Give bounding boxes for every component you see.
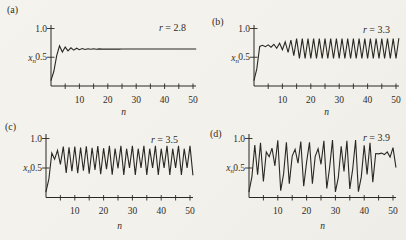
x-tick-label: 10 (278, 95, 288, 105)
y-tick-label: 1.0 (30, 134, 42, 144)
y-tick-label: 1.0 (233, 134, 245, 144)
x-tick-label: 10 (75, 95, 85, 105)
panel-a: 0.51.0xn1020304050n(a)r = 2.8 (0, 0, 203, 120)
x-tick-label: 50 (188, 95, 198, 105)
panel-letter: (c) (5, 121, 16, 133)
x-tick-label: 10 (273, 206, 283, 216)
x-axis-label: n (320, 221, 325, 231)
x-tick-label: 50 (388, 206, 398, 216)
x-tick-label: 30 (334, 95, 344, 105)
panel-d: 0.51.0xn1020304050n(d)r = 3.9 (203, 120, 406, 240)
y-tick-label: 0.5 (35, 52, 47, 62)
panel-letter: (d) (210, 128, 222, 140)
series-line (254, 39, 399, 81)
panel-c-plot: 0.51.0xn1020304050n(c)r = 3.5 (0, 120, 203, 240)
panel-letter: (a) (7, 4, 18, 16)
y-tick-label: 0.5 (233, 163, 245, 173)
series-line (51, 46, 196, 80)
r-value-label: r = 3.5 (151, 134, 178, 145)
panel-d-plot: 0.51.0xn1020304050n(d)r = 3.9 (203, 120, 406, 240)
panel-b-plot: 0.51.0xn1020304050n(b)r = 3.3 (203, 0, 406, 120)
x-tick-label: 50 (185, 206, 195, 216)
x-tick-label: 40 (156, 206, 166, 216)
x-axis-label: n (121, 107, 126, 117)
series-line (249, 140, 396, 192)
x-tick-label: 30 (131, 95, 141, 105)
r-value-label: r = 3.3 (363, 24, 390, 35)
x-tick-label: 30 (331, 206, 341, 216)
panel-c: 0.51.0xn1020304050n(c)r = 3.5 (0, 120, 203, 240)
logistic-map-time-series-figure: 0.51.0xn1020304050n(a)r = 2.8 0.51.0xn10… (0, 0, 406, 240)
panel-b: 0.51.0xn1020304050n(b)r = 3.3 (203, 0, 406, 120)
x-tick-label: 20 (302, 206, 312, 216)
series-line (46, 146, 193, 192)
x-tick-label: 20 (103, 95, 113, 105)
x-tick-label: 20 (306, 95, 316, 105)
x-tick-label: 50 (391, 95, 401, 105)
r-value-label: r = 2.8 (159, 22, 186, 33)
panel-a-plot: 0.51.0xn1020304050n(a)r = 2.8 (0, 0, 203, 120)
y-tick-label: 0.5 (238, 52, 250, 62)
x-tick-label: 40 (363, 95, 373, 105)
y-tick-label: 1.0 (35, 24, 47, 34)
y-tick-label: 0.5 (30, 163, 42, 173)
r-value-label: r = 3.9 (363, 132, 390, 143)
x-tick-label: 10 (70, 206, 80, 216)
x-axis-label: n (324, 107, 329, 117)
x-tick-label: 20 (99, 206, 109, 216)
y-tick-label: 1.0 (238, 24, 250, 34)
x-tick-label: 40 (160, 95, 170, 105)
x-axis-label: n (117, 221, 122, 231)
x-tick-label: 30 (128, 206, 138, 216)
x-tick-label: 40 (359, 206, 369, 216)
panel-letter: (b) (212, 16, 224, 28)
